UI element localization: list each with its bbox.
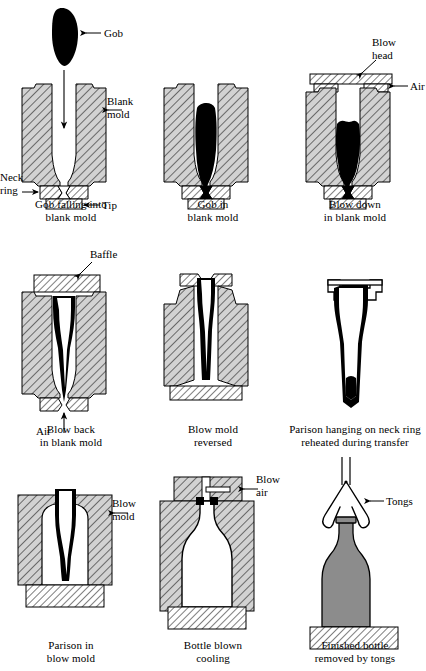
- label-air: Air: [410, 80, 425, 92]
- caption-line-1: Gob in: [198, 198, 229, 210]
- panel-caption-bottle-blown-cooling: Bottle blown cooling: [142, 639, 284, 665]
- panel-caption-blow-down: Blow down in blank mold: [284, 198, 426, 224]
- label-blank-mold-line1: Blank: [107, 95, 134, 107]
- label-blow-head-line2: head: [372, 49, 393, 61]
- panel-blow-down: Blow head Air Blow down in blank mold: [284, 0, 426, 230]
- neck-ring-right: [66, 398, 88, 411]
- label-blank-mold-line2: mold: [107, 108, 130, 120]
- caption-line-1: Parison in: [48, 639, 93, 651]
- caption-line-2: in blank mold: [284, 211, 426, 224]
- caption-line-2: reheated during transfer: [284, 436, 426, 449]
- panel-gob-falling: Gob Blank mold Neck ring Tip Gob falling…: [0, 0, 142, 230]
- panel-blow-back: Air Baffle Blow back in blank mold: [0, 230, 142, 455]
- panel-caption-parison-in-blow-mold: Parison in blow mold: [0, 639, 142, 665]
- panel-gob-in-blank-mold: Gob in blank mold: [142, 0, 284, 230]
- label-blow-head-line1: Blow: [372, 36, 396, 48]
- panel-caption-finished-bottle: Finished bottle removed by tongs: [284, 639, 426, 665]
- neck-ring-left-mark: [196, 497, 204, 505]
- blow-air-port: [206, 487, 230, 492]
- neck-ring-top: [328, 280, 382, 285]
- panel-caption-gob-in-blank-mold: Gob in blank mold: [142, 198, 284, 224]
- caption-line-1: Parison hanging on neck ring: [289, 423, 421, 435]
- panel-bottle-blown-cooling: Blow air Bottle blown cooling: [142, 455, 284, 671]
- blank-mold-left: [22, 84, 60, 186]
- caption-line-2: blank mold: [142, 211, 284, 224]
- label-baffle: Baffle: [90, 248, 117, 260]
- label-blow-mold-line1: Blow: [112, 497, 136, 509]
- caption-line-1: Blow mold: [188, 423, 238, 435]
- blank-mold-right: [218, 286, 248, 386]
- panel-caption-parison-hanging: Parison hanging on neck ring reheated du…: [284, 423, 426, 449]
- caption-line-2: in blank mold: [0, 436, 142, 449]
- label-gob: Gob: [104, 27, 123, 39]
- mold-bottom-plate: [26, 585, 104, 607]
- caption-line-1: Gob falling into: [35, 198, 107, 210]
- caption-line-1: Bottle blown: [184, 639, 242, 651]
- label-blow-air-line2: air: [256, 486, 268, 498]
- label-neck-ring-line2: ring: [0, 184, 18, 196]
- label-blow-air-line1: Blow: [256, 473, 280, 485]
- blow-head-plate: [310, 74, 392, 84]
- gob-shape: [52, 8, 78, 66]
- mold-bottom-plate: [170, 386, 242, 400]
- caption-line-1: Finished bottle: [321, 639, 388, 651]
- caption-line-1: Blow down: [329, 198, 381, 210]
- panel-parison-hanging: Parison hanging on neck ring reheated du…: [284, 230, 426, 455]
- label-blow-mold-line2: mold: [112, 510, 135, 522]
- blow-head-leader: [362, 60, 376, 73]
- panel-caption-blow-back: Blow back in blank mold: [0, 423, 142, 449]
- blank-mold-left: [164, 286, 194, 386]
- panel-caption-blow-mold-reversed: Blow mold reversed: [142, 423, 284, 449]
- finished-bottle-body: [322, 521, 370, 627]
- panel-caption-gob-falling: Gob falling into blank mold: [0, 198, 142, 224]
- neck-ring-left: [40, 398, 62, 411]
- caption-line-2: blow mold: [0, 652, 142, 665]
- caption-line-2: cooling: [142, 652, 284, 665]
- process-diagram-grid: Gob Blank mold Neck ring Tip Gob falling…: [0, 0, 426, 671]
- baffle-leader: [80, 262, 92, 274]
- neck-ring-right-mark: [210, 497, 218, 505]
- panel-blow-mold-reversed: Blow mold reversed: [142, 230, 284, 455]
- caption-line-2: reversed: [142, 436, 284, 449]
- blank-mold-right: [68, 84, 106, 186]
- caption-line-2: blank mold: [0, 211, 142, 224]
- caption-line-1: Blow back: [47, 423, 95, 435]
- panel-parison-in-blow-mold: Blow mold Parison in blow mold: [0, 455, 142, 671]
- panel-finished-bottle: Tongs Finished bottle removed by tongs: [284, 455, 426, 671]
- caption-line-2: removed by tongs: [284, 652, 426, 665]
- baffle-plate: [34, 275, 100, 292]
- label-tongs: Tongs: [386, 495, 413, 507]
- label-neck-ring-line1: Neck: [0, 171, 24, 183]
- bottle-finish-rim: [336, 517, 356, 523]
- mold-bottom-plate: [168, 607, 246, 629]
- parison-thick-base: [346, 376, 357, 400]
